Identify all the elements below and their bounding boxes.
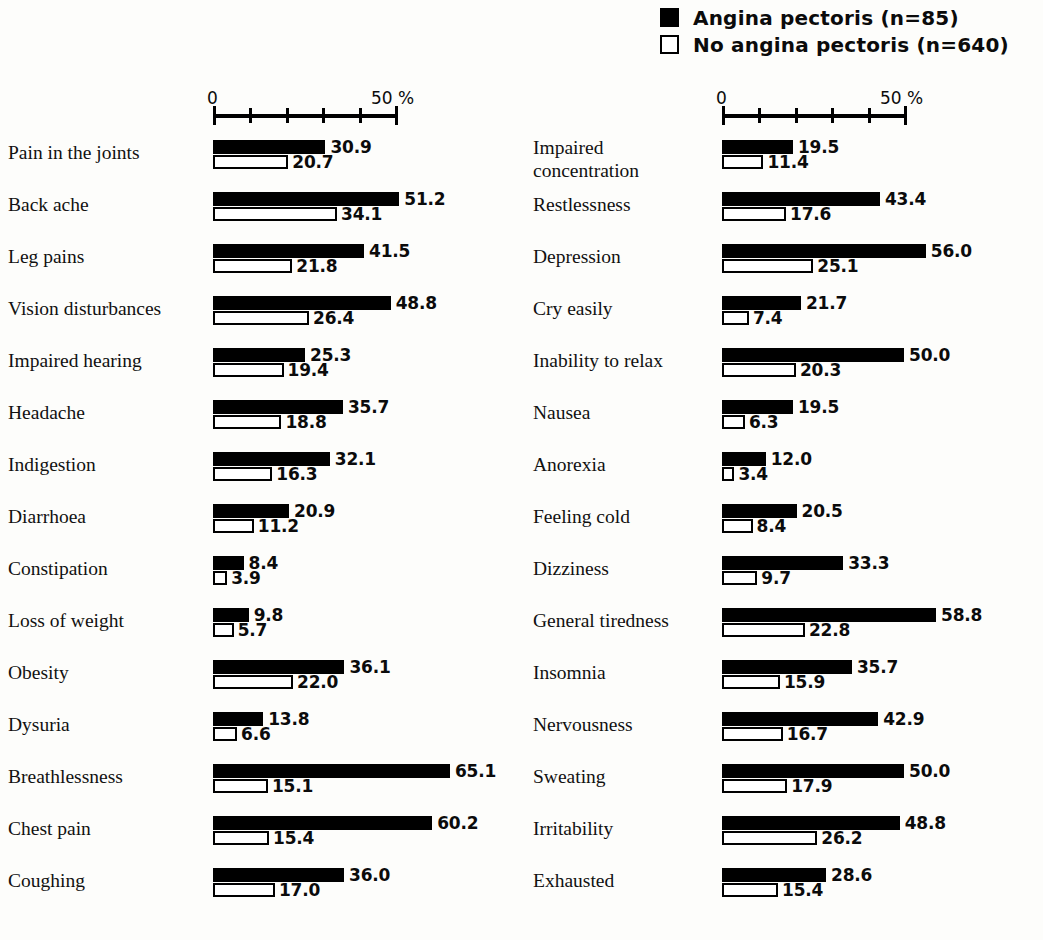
bar-row-label: Inability to relax — [505, 350, 710, 372]
bar-no-angina: 20.3 — [722, 363, 796, 377]
bar-no-angina: 16.7 — [722, 727, 783, 741]
bar-row: Impaired hearing25.319.4 — [0, 342, 520, 394]
legend-label-no-angina: No angina pectoris (n=640) — [693, 33, 1009, 57]
bar-pair: 36.122.0 — [213, 660, 344, 689]
bar-row: Coughing36.017.0 — [0, 862, 520, 914]
bar-no-angina: 26.4 — [213, 311, 309, 325]
bar-pair: 19.56.3 — [722, 400, 793, 429]
legend-swatch-hollow-icon — [660, 35, 679, 54]
bar-value-label: 32.1 — [335, 449, 376, 469]
bar-value-label: 15.1 — [272, 776, 313, 796]
bar-pair: 21.77.4 — [722, 296, 801, 325]
bar-pair: 30.920.7 — [213, 140, 325, 169]
bar-value-label: 3.9 — [231, 568, 261, 588]
bar-value-label: 17.9 — [791, 776, 832, 796]
bar-no-angina: 22.8 — [722, 623, 805, 637]
bar-value-label: 43.4 — [885, 189, 926, 209]
bar-value-label: 33.3 — [848, 553, 889, 573]
bar-row-label: Sweating — [505, 766, 710, 788]
bar-no-angina: 22.0 — [213, 675, 293, 689]
bar-value-label: 50.0 — [909, 761, 950, 781]
bar-pair: 19.511.4 — [722, 140, 793, 169]
bar-value-label: 21.8 — [296, 256, 337, 276]
bar-value-label: 13.8 — [268, 709, 309, 729]
bar-pair: 20.911.2 — [213, 504, 289, 533]
bar-pair: 41.521.8 — [213, 244, 364, 273]
bar-row: Nervousness42.916.7 — [505, 706, 1043, 758]
bar-row-label: Irritability — [505, 818, 710, 840]
bar-pair: 12.03.4 — [722, 452, 766, 481]
bar-pair: 32.116.3 — [213, 452, 330, 481]
bar-pair: 58.822.8 — [722, 608, 936, 637]
axis-line-left — [213, 114, 395, 118]
bar-value-label: 34.1 — [341, 204, 382, 224]
bar-value-label: 22.0 — [297, 672, 338, 692]
bar-no-angina: 7.4 — [722, 311, 749, 325]
bar-row: Cry easily21.77.4 — [505, 290, 1043, 342]
bar-row: Obesity36.122.0 — [0, 654, 520, 706]
bar-row: Inability to relax50.020.3 — [505, 342, 1043, 394]
bar-no-angina: 17.9 — [722, 779, 787, 793]
axis-tick — [868, 108, 871, 123]
bar-value-label: 35.7 — [857, 657, 898, 677]
bar-pair: 50.017.9 — [722, 764, 904, 793]
bar-row: Restlessness43.417.6 — [505, 186, 1043, 238]
bar-row-label: Anorexia — [505, 454, 710, 476]
bar-value-label: 15.4 — [273, 828, 314, 848]
bar-row-label: Impaired hearing — [0, 350, 200, 372]
bar-row-label: Leg pains — [0, 246, 200, 268]
legend-item-no-angina: No angina pectoris (n=640) — [660, 31, 1040, 58]
bar-value-label: 18.8 — [285, 412, 326, 432]
bar-no-angina: 15.4 — [722, 883, 778, 897]
axis-tick — [758, 108, 761, 123]
bar-no-angina: 8.4 — [722, 519, 753, 533]
bar-row-label: Exhausted — [505, 870, 710, 892]
bar-row: Headache35.718.8 — [0, 394, 520, 446]
bar-row: Nausea19.56.3 — [505, 394, 1043, 446]
axis-line-right — [722, 114, 904, 118]
axis-tick — [795, 108, 798, 123]
bar-value-label: 20.7 — [292, 152, 333, 172]
bar-pair: 50.020.3 — [722, 348, 904, 377]
bar-row: Indigestion32.116.3 — [0, 446, 520, 498]
bar-value-label: 9.7 — [761, 568, 791, 588]
bar-row-label: Vision disturbances — [0, 298, 200, 320]
bar-value-label: 19.5 — [798, 397, 839, 417]
bar-pair: 20.58.4 — [722, 504, 797, 533]
bar-row: Sweating50.017.9 — [505, 758, 1043, 810]
bar-angina: 48.8 — [213, 296, 391, 310]
bar-value-label: 11.4 — [767, 152, 808, 172]
bar-pair: 9.85.7 — [213, 608, 249, 637]
bar-no-angina: 19.4 — [213, 363, 284, 377]
bar-row: Chest pain60.215.4 — [0, 810, 520, 862]
axis-min-label-right: 0 — [716, 88, 727, 108]
bar-no-angina: 9.7 — [722, 571, 757, 585]
bar-row: Vision disturbances48.826.4 — [0, 290, 520, 342]
bar-no-angina: 25.1 — [722, 259, 813, 273]
bar-no-angina: 3.4 — [722, 467, 734, 481]
bar-no-angina: 3.9 — [213, 571, 227, 585]
bar-value-label: 56.0 — [931, 241, 972, 261]
bar-row-label: Coughing — [0, 870, 200, 892]
axis-tick — [395, 106, 398, 125]
bar-value-label: 26.4 — [313, 308, 354, 328]
bar-value-label: 16.3 — [276, 464, 317, 484]
bar-pair: 35.718.8 — [213, 400, 343, 429]
bar-no-angina: 15.1 — [213, 779, 268, 793]
bar-row-label: Loss of weight — [0, 610, 200, 632]
bar-row: Loss of weight9.85.7 — [0, 602, 520, 654]
axis-tick — [359, 108, 362, 123]
bar-value-label: 65.1 — [455, 761, 496, 781]
bar-row-label: Dizziness — [505, 558, 710, 580]
bar-value-label: 15.9 — [784, 672, 825, 692]
axis-min-label-left: 0 — [207, 88, 218, 108]
bar-value-label: 22.8 — [809, 620, 850, 640]
bar-value-label: 60.2 — [437, 813, 478, 833]
bar-pair: 65.115.1 — [213, 764, 450, 793]
bar-pair: 28.615.4 — [722, 868, 826, 897]
bar-row-label: Obesity — [0, 662, 200, 684]
bar-row: Dysuria13.86.6 — [0, 706, 520, 758]
chart-page: { "legend": { "items": [ { "label": "Ang… — [0, 0, 1043, 940]
bar-value-label: 17.0 — [279, 880, 320, 900]
bar-pair: 35.715.9 — [722, 660, 852, 689]
